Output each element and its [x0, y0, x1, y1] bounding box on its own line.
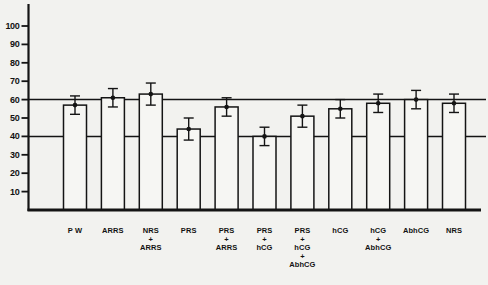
- bar: [64, 105, 87, 210]
- mean-dot: [338, 107, 343, 112]
- y-tick-label: 10: [10, 187, 20, 197]
- x-category-label: AbhCG: [403, 226, 429, 235]
- bar-chart-svg: 102030405060708090100P WARRSNRS+ARRSPRSP…: [0, 0, 488, 285]
- y-tick-label: 30: [10, 150, 20, 160]
- bar: [101, 98, 124, 210]
- mean-dot: [262, 134, 267, 139]
- x-category-label: NRS+ARRS: [140, 226, 162, 252]
- bar: [253, 136, 276, 210]
- mean-dot: [149, 92, 154, 97]
- bar: [367, 103, 390, 210]
- bar: [139, 94, 162, 210]
- bar: [215, 107, 238, 210]
- y-tick-label: 80: [10, 58, 20, 68]
- mean-dot: [300, 114, 305, 119]
- x-category-label: ARRS: [102, 226, 124, 235]
- bar: [291, 116, 314, 210]
- x-category-label: PRS+ARRS: [216, 226, 238, 252]
- mean-dot: [186, 127, 191, 132]
- bar: [405, 100, 428, 210]
- x-category-label: P W: [68, 226, 83, 235]
- mean-dot: [414, 97, 419, 102]
- y-tick-label: 40: [10, 131, 20, 141]
- bar: [443, 103, 466, 210]
- x-category-label: hCG+AbhCG: [365, 226, 391, 252]
- y-tick-label: 50: [10, 113, 20, 123]
- x-category-label: hCG: [332, 226, 348, 235]
- y-tick-label: 70: [10, 76, 20, 86]
- mean-dot: [452, 101, 457, 106]
- x-category-label: PRS+hCG+AbhCG: [289, 226, 315, 269]
- x-category-label: PRS+hCG: [256, 226, 272, 252]
- y-tick-label: 60: [10, 95, 20, 105]
- y-tick-label: 100: [5, 21, 19, 31]
- y-tick-label: 90: [10, 39, 20, 49]
- y-tick-label: 20: [10, 168, 20, 178]
- mean-dot: [376, 101, 381, 106]
- mean-dot: [73, 103, 78, 108]
- mean-dot: [224, 105, 229, 110]
- bar: [329, 109, 352, 210]
- bar: [177, 129, 200, 210]
- bar-chart-figure: 102030405060708090100P WARRSNRS+ARRSPRSP…: [0, 0, 488, 285]
- x-category-label: PRS: [181, 226, 197, 235]
- mean-dot: [111, 95, 116, 100]
- x-category-label: NRS: [446, 226, 462, 235]
